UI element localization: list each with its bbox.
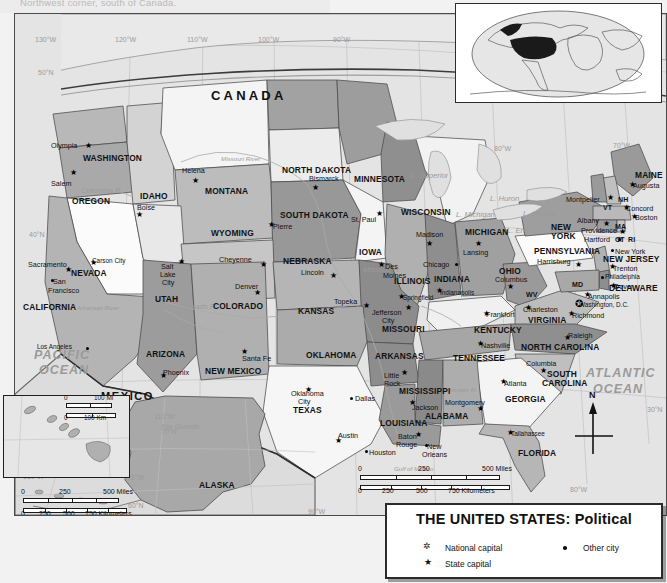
state-label-wyoming-9[interactable]: WYOMING: [211, 228, 254, 238]
city-label-cheyenne-9[interactable]: Cheyenne: [219, 255, 252, 264]
state-label-washington-0[interactable]: WASHINGTON: [83, 153, 142, 163]
city-label-boston-55[interactable]: Boston: [635, 213, 657, 222]
state-capital-star-icon-cheyenne-9: ★: [260, 261, 267, 269]
state-label-idaho-2[interactable]: IDAHO: [140, 191, 168, 201]
state-label-minnesota-6[interactable]: MINNESOTA: [354, 174, 405, 184]
city-label-trenton-60[interactable]: Trenton: [613, 264, 638, 273]
city-label-nashville-26[interactable]: Nashville: [481, 341, 510, 350]
state-label-tennessee-28[interactable]: TENNESSEE: [453, 353, 505, 363]
legend-label-other-city: Other city: [583, 543, 619, 553]
state-label-oregon-1[interactable]: OREGON: [72, 196, 110, 206]
state-label-georgia-35[interactable]: GEORGIA: [505, 394, 546, 404]
state-label-virginia-22[interactable]: VIRGINIA: [528, 315, 566, 325]
state-label-arizona-24[interactable]: ARIZONA: [146, 349, 185, 359]
state-label-ri-49[interactable]: RI: [628, 236, 635, 243]
other-city-dot-icon-los-angeles-41: [86, 347, 89, 350]
other-city-dot-icon-chicago-14: [455, 263, 458, 266]
state-label-york-40[interactable]: YORK: [551, 231, 576, 241]
state-label-utah-16[interactable]: UTAH: [155, 294, 178, 304]
water-label-l-ontario-5: L. Ontario: [523, 209, 556, 218]
state-label-mississippi-33[interactable]: MISSISSIPPI: [399, 386, 450, 396]
state-label-alabama-34[interactable]: ALABAMA: [425, 411, 468, 421]
city-label-albany-56[interactable]: Albany: [577, 216, 599, 225]
city-label-carson-city-37[interactable]: Carson City: [92, 257, 125, 264]
city-label-bismarck-4[interactable]: Bismarck: [309, 174, 339, 183]
city-label-harrisburg-63[interactable]: Harrisburg: [537, 257, 571, 266]
state-label-california-23[interactable]: CALIFORNIA: [23, 302, 76, 312]
city-label-atlanta-27[interactable]: Atlanta: [504, 379, 526, 388]
city-label-san-39[interactable]: San: [53, 277, 66, 286]
city-label-montpelier-52[interactable]: Montpelier: [566, 195, 600, 204]
state-label-south-dakota-5[interactable]: SOUTH DAKOTA: [280, 210, 349, 220]
city-label-topeka-18[interactable]: Topeka: [334, 297, 357, 306]
city-label-sacramento-38[interactable]: Sacramento: [28, 260, 67, 269]
state-label-wv-21[interactable]: WV: [526, 291, 538, 298]
state-label-kansas-18[interactable]: KANSAS: [298, 306, 334, 316]
city-label-indianapolis-16[interactable]: Indianapolis: [440, 289, 474, 296]
city-label-madison-7[interactable]: Madison: [416, 230, 443, 239]
state-label-new-mexico-25[interactable]: NEW MEXICO: [205, 366, 261, 376]
city-label-new-york-59[interactable]: New York: [615, 247, 645, 256]
state-label-carolina-31[interactable]: CAROLINA: [542, 378, 587, 388]
state-label-pennsylvania-38[interactable]: PENNSYLVANIA: [534, 246, 600, 256]
city-label-frankfort-21[interactable]: Frankfort: [486, 310, 515, 319]
city-label-city-34[interactable]: City: [298, 397, 310, 406]
city-label-dallas-45[interactable]: Dallas: [355, 394, 375, 403]
world-locator-inset: [455, 3, 662, 103]
city-label-raleigh-24[interactable]: Raleigh: [568, 331, 592, 340]
other-city-dot-icon-new-york-59: [611, 249, 614, 252]
city-label-francisco-40[interactable]: Francisco: [48, 286, 79, 295]
state-label-nebraska-10[interactable]: NEBRASKA: [283, 256, 332, 266]
city-label-des-12[interactable]: Des: [385, 262, 398, 271]
city-label-chicago-14[interactable]: Chicago: [423, 260, 449, 269]
city-label-rouge-49[interactable]: Rouge: [396, 440, 417, 449]
city-label-olympia-0[interactable]: Olympia: [51, 141, 77, 150]
state-label-alaska-51[interactable]: ALASKA: [199, 480, 235, 490]
state-label-north-carolina-29[interactable]: NORTH CAROLINA: [521, 342, 599, 352]
city-label-houston-47[interactable]: Houston: [369, 448, 396, 457]
state-label-missouri-19[interactable]: MISSOURI: [382, 324, 425, 334]
city-label-los-angeles-41[interactable]: Los Angeles: [37, 343, 72, 350]
state-label-md-43[interactable]: MD: [572, 281, 583, 288]
state-label-michigan-8[interactable]: MICHIGAN: [465, 227, 509, 237]
state-label-vt-46[interactable]: VT: [603, 204, 612, 211]
city-label-annapolis-64[interactable]: Annapolis: [588, 292, 620, 301]
city-label-washington-d-c-65[interactable]: Washington, D.C.: [579, 301, 629, 308]
city-label-springfield-15[interactable]: Springfield: [403, 294, 433, 301]
city-label-city-44[interactable]: City: [162, 278, 174, 287]
state-label-iowa-11[interactable]: IOWA: [359, 247, 382, 257]
city-label-providence-57[interactable]: Providence: [581, 226, 617, 235]
state-label-montana-3[interactable]: MONTANA: [205, 186, 248, 196]
city-label-salem-1[interactable]: Salem: [51, 179, 71, 188]
city-label-orleans-51[interactable]: Orleans: [422, 450, 447, 459]
state-capital-star-icon-santa-fe-35: ★: [241, 348, 248, 356]
city-label-pierre-5[interactable]: Pierre: [273, 222, 292, 231]
city-label-lansing-8[interactable]: Lansing: [463, 248, 488, 257]
city-label-helena-2[interactable]: Helena: [182, 166, 205, 175]
state-capital-star-icon-des-12: ★: [378, 261, 385, 269]
state-label-texas-32[interactable]: TEXAS: [293, 405, 322, 415]
state-label-maine-44[interactable]: MAINE: [635, 170, 663, 180]
state-label-florida-37[interactable]: FLORIDA: [518, 448, 556, 458]
state-label-kentucky-20[interactable]: KENTUCKY: [474, 325, 522, 335]
city-label-city-20[interactable]: City: [382, 316, 394, 325]
hawaii-inset: 0 100 Mi 0 100 Km: [3, 395, 130, 478]
state-label-arkansas-27[interactable]: ARKANSAS: [375, 351, 424, 361]
city-label-philadelphia-61[interactable]: Philadelphia: [605, 273, 640, 280]
water-label-l-erie-6: L. Erie: [507, 226, 529, 235]
city-label-hartford-58[interactable]: Hartford: [584, 235, 610, 244]
city-label-rock-32[interactable]: Rock: [384, 379, 400, 388]
city-label-st-paul-6[interactable]: St. Paul: [351, 215, 376, 224]
state-label-colorado-17[interactable]: COLORADO: [213, 301, 263, 311]
state-label-oklahoma-26[interactable]: OKLAHOMA: [306, 350, 357, 360]
state-label-indiana-13[interactable]: INDIANA: [434, 274, 470, 284]
state-label-nh-45[interactable]: NH: [618, 196, 628, 203]
city-label-richmond-23[interactable]: Richmond: [572, 311, 604, 320]
city-label-augusta-54[interactable]: Augusta: [633, 181, 659, 190]
state-label-wisconsin-7[interactable]: WISCONSIN: [401, 207, 451, 217]
city-label-lincoln-11[interactable]: Lincoln: [301, 268, 324, 277]
state-label-nevada-15[interactable]: NEVADA: [71, 268, 107, 278]
city-label-moines-13[interactable]: Moines: [383, 271, 406, 280]
state-label-louisiana-36[interactable]: LOUISIANA: [380, 418, 427, 428]
city-label-tallahassee-30[interactable]: Tallahassee: [511, 430, 545, 437]
